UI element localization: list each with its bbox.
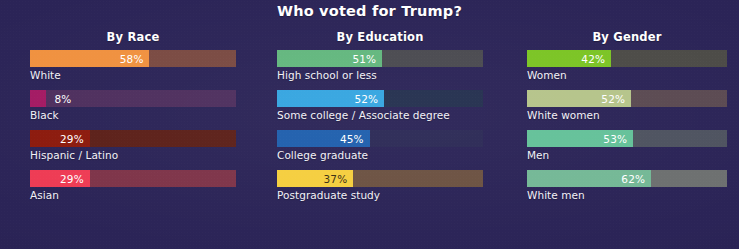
- chart-group-by-race: By Race 58%White8%Black29%Hispanic / Lat…: [30, 30, 236, 210]
- bar-label-high-school-or-less: High school or less: [277, 69, 483, 81]
- page-title: Who voted for Trump?: [0, 3, 739, 19]
- bar-row-men: 53%Men: [527, 130, 727, 161]
- bar-track-some-college-associate-degree: 52%: [277, 90, 483, 107]
- bar-row-high-school-or-less: 51%High school or less: [277, 50, 483, 81]
- group-header-by-gender: By Gender: [527, 30, 727, 44]
- bar-fill-asian: 29%: [30, 170, 90, 187]
- bar-row-women: 42%Women: [527, 50, 727, 81]
- bar-row-college-graduate: 45%College graduate: [277, 130, 483, 161]
- bar-value-black: 8%: [54, 90, 71, 107]
- bar-track-postgraduate-study: 37%: [277, 170, 483, 187]
- bar-fill-men: 53%: [527, 130, 633, 147]
- bar-label-asian: Asian: [30, 189, 236, 201]
- bar-fill-some-college-associate-degree: 52%: [277, 90, 384, 107]
- bar-label-postgraduate-study: Postgraduate study: [277, 189, 483, 201]
- bar-row-white: 58%White: [30, 50, 236, 81]
- bar-fill-postgraduate-study: 37%: [277, 170, 353, 187]
- bar-row-asian: 29%Asian: [30, 170, 236, 201]
- group-header-by-race: By Race: [30, 30, 236, 44]
- bar-value-asian: 29%: [60, 173, 84, 185]
- bar-value-men: 53%: [603, 133, 627, 145]
- bar-value-high-school-or-less: 51%: [352, 53, 376, 65]
- bar-value-hispanic-latino: 29%: [60, 133, 84, 145]
- bar-track-black: 8%: [30, 90, 236, 107]
- bar-value-white-men: 62%: [621, 173, 645, 185]
- bar-value-women: 42%: [581, 53, 605, 65]
- bar-list-by-gender: 42%Women52%White women53%Men62%White men: [527, 50, 727, 201]
- bar-row-some-college-associate-degree: 52%Some college / Associate degree: [277, 90, 483, 121]
- bar-track-white: 58%: [30, 50, 236, 67]
- bar-value-postgraduate-study: 37%: [324, 173, 348, 185]
- bar-list-by-race: 58%White8%Black29%Hispanic / Latino29%As…: [30, 50, 236, 201]
- bar-value-white-women: 52%: [601, 93, 625, 105]
- bar-row-black: 8%Black: [30, 90, 236, 121]
- bar-fill-black: [30, 90, 46, 107]
- bar-track-women: 42%: [527, 50, 727, 67]
- bar-label-college-graduate: College graduate: [277, 149, 483, 161]
- bar-fill-college-graduate: 45%: [277, 130, 370, 147]
- bar-row-white-women: 52%White women: [527, 90, 727, 121]
- bar-label-black: Black: [30, 109, 236, 121]
- bar-label-white-men: White men: [527, 189, 727, 201]
- chart-group-by-gender: By Gender 42%Women52%White women53%Men62…: [527, 30, 727, 210]
- bar-list-by-education: 51%High school or less52%Some college / …: [277, 50, 483, 201]
- bar-row-postgraduate-study: 37%Postgraduate study: [277, 170, 483, 201]
- bar-fill-high-school-or-less: 51%: [277, 50, 382, 67]
- bar-track-white-men: 62%: [527, 170, 727, 187]
- bar-track-asian: 29%: [30, 170, 236, 187]
- bar-value-college-graduate: 45%: [340, 133, 364, 145]
- bar-label-some-college-associate-degree: Some college / Associate degree: [277, 109, 483, 121]
- chart-group-by-education: By Education 51%High school or less52%So…: [277, 30, 483, 210]
- bar-fill-hispanic-latino: 29%: [30, 130, 90, 147]
- bar-track-hispanic-latino: 29%: [30, 130, 236, 147]
- bar-fill-white-men: 62%: [527, 170, 651, 187]
- bar-label-hispanic-latino: Hispanic / Latino: [30, 149, 236, 161]
- bar-value-some-college-associate-degree: 52%: [354, 93, 378, 105]
- bar-fill-white: 58%: [30, 50, 149, 67]
- group-header-by-education: By Education: [277, 30, 483, 44]
- bar-value-white: 58%: [120, 53, 144, 65]
- bar-track-college-graduate: 45%: [277, 130, 483, 147]
- bar-fill-white-women: 52%: [527, 90, 631, 107]
- bar-row-white-men: 62%White men: [527, 170, 727, 201]
- bar-label-white: White: [30, 69, 236, 81]
- bar-label-men: Men: [527, 149, 727, 161]
- bar-fill-women: 42%: [527, 50, 611, 67]
- bar-label-white-women: White women: [527, 109, 727, 121]
- bar-row-hispanic-latino: 29%Hispanic / Latino: [30, 130, 236, 161]
- bar-track-high-school-or-less: 51%: [277, 50, 483, 67]
- bar-track-men: 53%: [527, 130, 727, 147]
- bar-label-women: Women: [527, 69, 727, 81]
- bar-track-white-women: 52%: [527, 90, 727, 107]
